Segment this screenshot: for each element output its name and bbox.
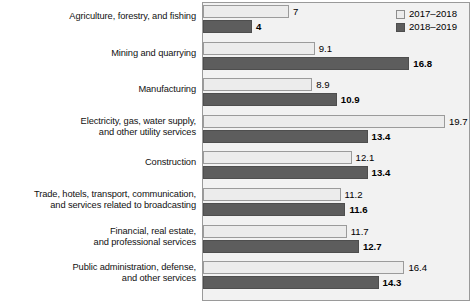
category-label: Agriculture, forestry, and fishing [0, 11, 196, 22]
legend-item-2018-2019[interactable]: 2018–2019 [396, 21, 457, 33]
category-label: Trade, hotels, transport, communication,… [0, 189, 196, 211]
bar-value-label: 14.3 [383, 276, 402, 289]
legend-label: 2017–2018 [409, 8, 457, 20]
chart-row: Electricity, gas, water supply, and othe… [0, 114, 474, 147]
bar-2017-2018[interactable] [203, 151, 352, 164]
bar-2018-2019[interactable] [203, 276, 379, 289]
bar-2017-2018[interactable] [203, 115, 445, 128]
bar-value-label: 16.8 [413, 57, 432, 70]
bar-2018-2019[interactable] [203, 240, 359, 253]
legend-item-2017-2018[interactable]: 2017–2018 [396, 8, 457, 20]
category-label: Financial, real estate, and professional… [0, 226, 196, 248]
legend-swatch-dark-icon [396, 23, 405, 32]
bar-2017-2018[interactable] [203, 225, 347, 238]
bar-value-label: 11.7 [351, 225, 369, 238]
bar-2017-2018[interactable] [203, 5, 289, 18]
chart-legend: 2017–2018 2018–2019 [396, 8, 457, 34]
bar-2018-2019[interactable] [203, 20, 252, 33]
chart-row: Manufacturing8.910.9 [0, 77, 474, 110]
bar-chart: Agriculture, forestry, and fishing74Mini… [0, 0, 474, 308]
bar-value-label: 9.1 [319, 42, 332, 55]
category-label: Electricity, gas, water supply, and othe… [0, 116, 196, 138]
bar-value-label: 16.4 [408, 261, 427, 274]
bar-value-label: 7 [293, 5, 298, 18]
bar-2017-2018[interactable] [203, 78, 312, 91]
bar-2017-2018[interactable] [203, 188, 341, 201]
chart-row: Mining and quarrying9.116.8 [0, 41, 474, 74]
chart-row: Construction12.113.4 [0, 150, 474, 183]
chart-row: Financial, real estate, and professional… [0, 224, 474, 257]
bar-2018-2019[interactable] [203, 93, 337, 106]
category-label: Public administration, defense, and othe… [0, 262, 196, 284]
bar-2017-2018[interactable] [203, 42, 315, 55]
legend-label: 2018–2019 [409, 21, 457, 33]
bar-value-label: 11.2 [345, 188, 363, 201]
category-label: Mining and quarrying [0, 48, 196, 59]
bar-value-label: 8.9 [316, 78, 329, 91]
legend-swatch-light-icon [396, 10, 405, 19]
bar-2018-2019[interactable] [203, 166, 368, 179]
bar-2018-2019[interactable] [203, 57, 409, 70]
bar-value-label: 10.9 [341, 93, 360, 106]
bar-value-label: 19.7 [449, 115, 468, 128]
bar-2018-2019[interactable] [203, 130, 368, 143]
bar-value-label: 11.6 [349, 203, 367, 216]
bar-2017-2018[interactable] [203, 261, 404, 274]
category-label: Construction [0, 157, 196, 168]
bar-2018-2019[interactable] [203, 203, 345, 216]
chart-row: Public administration, defense, and othe… [0, 260, 474, 293]
bar-value-label: 12.7 [363, 240, 382, 253]
chart-row: Trade, hotels, transport, communication,… [0, 187, 474, 220]
chart-rows: Agriculture, forestry, and fishing74Mini… [0, 0, 474, 308]
category-label: Manufacturing [0, 84, 196, 95]
bar-value-label: 12.1 [356, 151, 375, 164]
bar-value-label: 13.4 [372, 130, 391, 143]
bar-value-label: 13.4 [372, 166, 391, 179]
bar-value-label: 4 [256, 20, 261, 33]
